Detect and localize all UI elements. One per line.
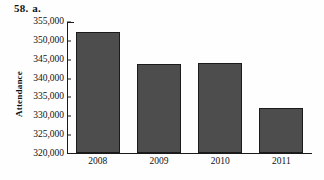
y-axis-tick-label: 340,000 xyxy=(33,74,64,84)
y-axis-tick-mark xyxy=(67,59,71,60)
x-axis-tick-label: 2010 xyxy=(211,157,230,167)
y-axis-tick-mark xyxy=(67,135,71,136)
x-axis-tick-label: 2011 xyxy=(272,157,291,167)
y-axis-tick-labels: 320,000325,000330,000335,000340,000345,0… xyxy=(24,22,64,154)
y-axis-tick-label: 325,000 xyxy=(33,130,64,140)
y-axis-tick-mark xyxy=(67,40,71,41)
bar-chart: Attendance 320,000325,000330,000335,0003… xyxy=(0,0,324,180)
y-axis-tick-label: 355,000 xyxy=(33,17,64,27)
bar-2011 xyxy=(259,108,303,153)
plot-area xyxy=(67,22,312,154)
x-axis-tick-labels: 2008200920102011 xyxy=(67,157,312,173)
y-axis-tick-label: 330,000 xyxy=(33,112,64,122)
x-axis-tick-label: 2009 xyxy=(149,157,168,167)
bar-series xyxy=(67,22,312,153)
y-axis-tick-mark xyxy=(67,78,71,79)
y-axis-tick-label: 335,000 xyxy=(33,93,64,103)
figure-page: 58.a. Attendance 320,000325,000330,00033… xyxy=(0,0,324,180)
bar-2009 xyxy=(137,64,181,153)
x-axis-tick-label: 2008 xyxy=(88,157,107,167)
y-axis-tick-mark xyxy=(67,116,71,117)
y-axis-tick-label: 320,000 xyxy=(33,149,64,159)
bar-2008 xyxy=(76,32,120,153)
bar-2010 xyxy=(198,63,242,154)
y-axis-tick-label: 350,000 xyxy=(33,36,64,46)
y-axis-tick-mark xyxy=(67,97,71,98)
y-axis-tick-mark xyxy=(67,22,71,23)
y-axis-tick-label: 345,000 xyxy=(33,55,64,65)
